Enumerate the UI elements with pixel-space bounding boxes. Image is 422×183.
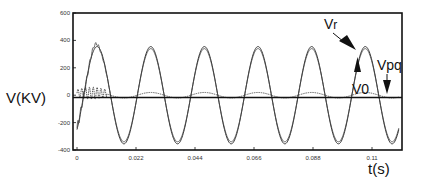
x-tick-label: 0.044 bbox=[187, 155, 203, 161]
arrow-vpq-head-icon bbox=[383, 80, 391, 94]
x-axis-title: t(s) bbox=[368, 160, 390, 177]
y-tick-label: -400 bbox=[58, 147, 71, 153]
x-tick-label: 0.088 bbox=[305, 155, 321, 161]
x-tick-label: 0 bbox=[75, 155, 79, 161]
y-tick-label: 400 bbox=[60, 37, 71, 43]
arrow-v0-head-icon bbox=[354, 57, 361, 72]
voltage-chart: 6004002000-200-400 00.0220.0440.0660.088… bbox=[0, 0, 422, 183]
x-tick-label: 0.022 bbox=[128, 155, 144, 161]
y-axis-title: V(KV) bbox=[6, 89, 46, 106]
x-tick-label: 0.066 bbox=[246, 155, 262, 161]
annotation-vr: Vr bbox=[324, 16, 337, 32]
plot-curves bbox=[77, 43, 399, 144]
y-tick-label: 200 bbox=[60, 65, 71, 71]
y-tick-label: 0 bbox=[67, 92, 71, 98]
arrow-vr-head-icon bbox=[339, 35, 356, 50]
curve-vr bbox=[77, 43, 399, 142]
annotation-v0: V0 bbox=[352, 81, 369, 97]
y-tick-label: -200 bbox=[58, 120, 71, 126]
annotation-vpq: Vpq bbox=[377, 57, 402, 73]
x-axis-ticks: 00.0220.0440.0660.0880.11 bbox=[75, 147, 378, 161]
y-tick-label: 600 bbox=[60, 10, 71, 16]
